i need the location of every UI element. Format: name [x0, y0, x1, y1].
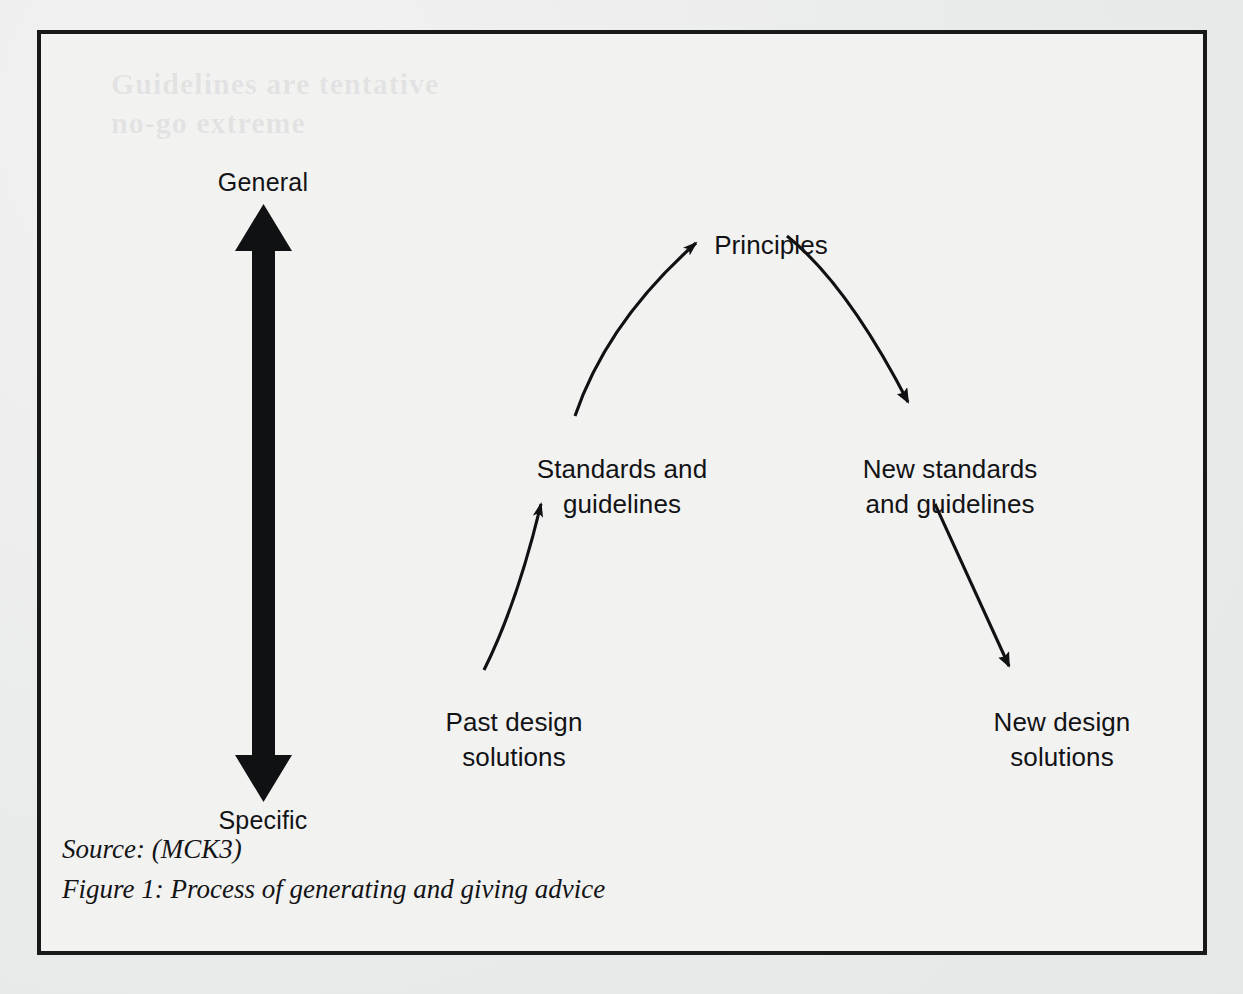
caption-source: Source: (MCK3)	[62, 829, 962, 869]
node-label-new-design-solutions: New design solutions	[949, 705, 1175, 775]
node-line: Standards and	[506, 452, 738, 487]
bleedthrough-ghost-text-line-2: no-go extreme	[111, 106, 306, 140]
node-label-past-design-solutions: Past design solutions	[401, 705, 627, 775]
figure-caption: Source: (MCK3) Figure 1: Process of gene…	[62, 829, 962, 909]
node-line: solutions	[401, 740, 627, 775]
generality-double-arrow-icon	[234, 204, 293, 802]
node-line: and guidelines	[831, 487, 1069, 522]
node-label-principles: Principles	[671, 228, 871, 263]
bleedthrough-ghost-text-line-1: Guidelines are tentative	[111, 67, 439, 101]
node-line: Principles	[671, 228, 871, 263]
node-label-new-standards-and-guidelines: New standards and guidelines	[831, 452, 1069, 522]
node-line: guidelines	[506, 487, 738, 522]
arrow-new-standards-to-new-solutions	[935, 504, 1009, 666]
arrow-standards-to-principles	[575, 243, 696, 416]
node-label-standards-and-guidelines: Standards and guidelines	[506, 452, 738, 522]
node-line: Past design	[401, 705, 627, 740]
arrow-past-to-standards	[484, 504, 541, 670]
axis-label-general: General	[163, 168, 363, 196]
node-line: New design	[949, 705, 1175, 740]
caption-figure-title: Figure 1: Process of generating and givi…	[62, 869, 962, 909]
figure-frame: Guidelines are tentative no-go extreme G…	[37, 30, 1207, 955]
node-line: New standards	[831, 452, 1069, 487]
node-line: solutions	[949, 740, 1175, 775]
